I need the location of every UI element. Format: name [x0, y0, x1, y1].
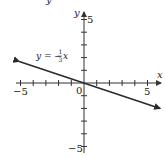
- x-min-tick-label: −5: [13, 86, 28, 97]
- y-min-tick-label: −5: [68, 143, 83, 154]
- cut-off-text-fragment: y: [45, 0, 52, 5]
- x-axis-label: x: [157, 69, 163, 80]
- origin-label: 0: [76, 85, 82, 96]
- x-max-tick-label: 5: [144, 86, 150, 97]
- y-axis-label: y: [73, 7, 80, 18]
- equation-label: y = − 1 3 x: [35, 48, 68, 63]
- y-max-tick-label: 5: [87, 14, 93, 25]
- equation-variable: x: [63, 51, 68, 61]
- fraction-denominator: 3: [59, 56, 63, 63]
- graph-of-linear-function: y x y −5 5 5 −5 0 y = − 1 3 x: [0, 0, 165, 158]
- fraction-numerator: 1: [59, 48, 63, 55]
- line-y-equals-neg-third-x: [19, 61, 160, 108]
